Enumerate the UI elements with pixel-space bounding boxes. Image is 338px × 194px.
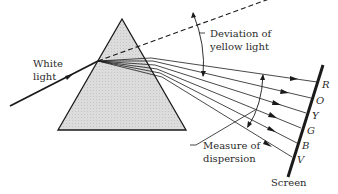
deviation-arc	[191, 12, 206, 77]
spectrum-label-b: B	[301, 140, 309, 151]
prism-dispersion-diagram: White light Deviation of yellow light Me…	[0, 0, 338, 194]
deviation-label: Deviation of	[210, 28, 273, 39]
dispersion-label: Measure of	[203, 140, 262, 151]
spectrum-label-r: R	[321, 79, 330, 90]
screen-label: Screen	[271, 177, 307, 188]
deviation-label-2: yellow light	[209, 41, 269, 52]
screen	[288, 65, 323, 177]
spectrum-label-v: V	[297, 154, 306, 165]
white-light-label: White	[33, 58, 63, 69]
ray-arrowheads	[263, 76, 298, 147]
spectrum-label-g: G	[307, 125, 315, 136]
dispersion-label-2: dispersion	[203, 153, 256, 164]
white-light-label-2: light	[33, 71, 56, 82]
spectrum-label-y: Y	[312, 110, 320, 121]
spectrum-label-o: O	[316, 95, 324, 106]
